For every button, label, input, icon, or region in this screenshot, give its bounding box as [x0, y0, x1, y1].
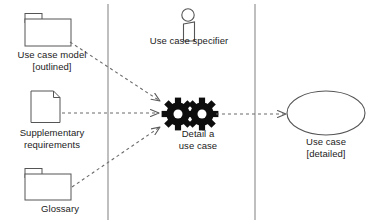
label-use-case-specifier: Use case specifier [135, 35, 243, 47]
label-use-case-detailed: Use case [detailed] [279, 136, 373, 159]
ellipse-icon [287, 91, 365, 135]
diagram-canvas [0, 0, 377, 224]
label-glossary: Glossary [8, 203, 112, 215]
folder-icon [25, 14, 71, 47]
uml-workflow-diagram: Use case model [outlined] Supplementary … [0, 0, 377, 224]
gears-icon [162, 98, 219, 131]
document-icon [31, 91, 60, 123]
label-detail-a-use-case: Detail a use case [158, 128, 238, 151]
label-use-case-model: Use case model [outlined] [0, 49, 104, 72]
folder-icon [25, 169, 71, 201]
label-supplementary-requirements: Supplementary requirements [0, 127, 104, 150]
